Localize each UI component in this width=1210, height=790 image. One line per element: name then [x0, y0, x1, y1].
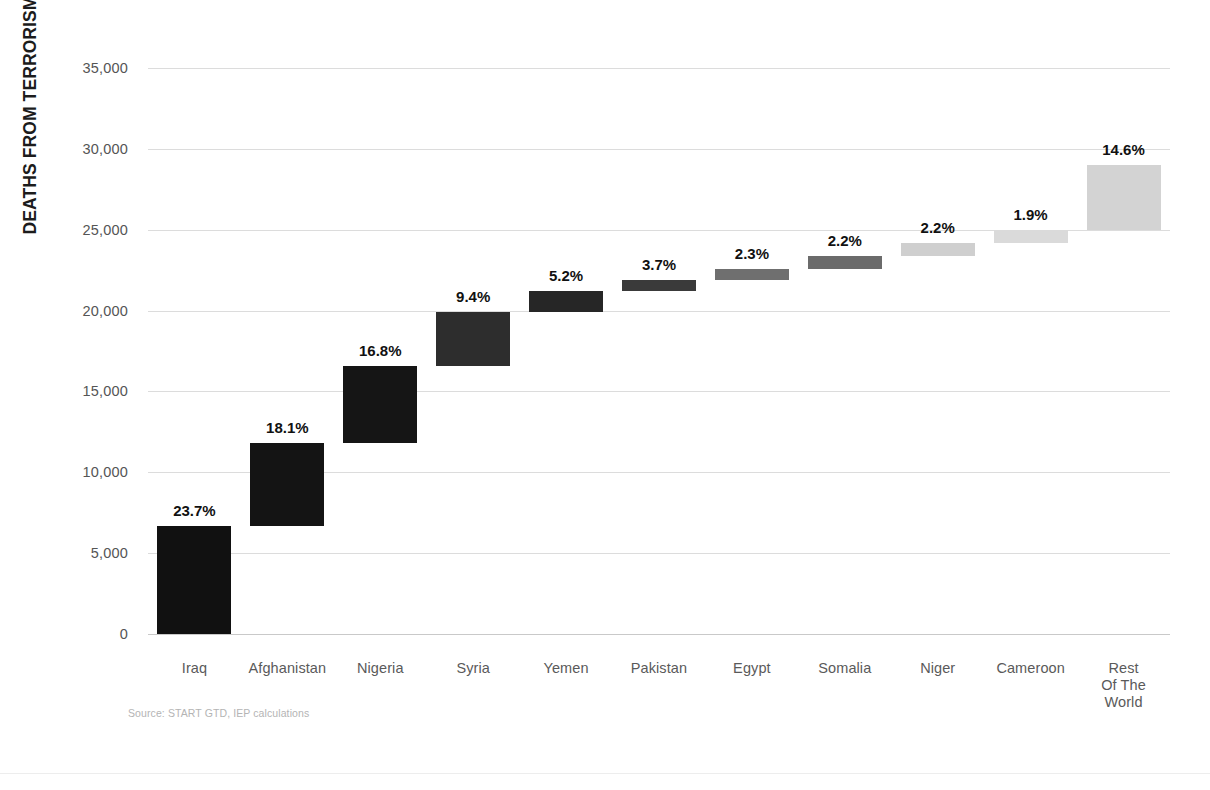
- bar-value-label: 14.6%: [1077, 141, 1170, 158]
- x-axis-label-line: Rest: [1077, 660, 1170, 677]
- y-axis-tick-label: 5,000: [91, 545, 128, 561]
- bar-value-label: 2.2%: [798, 232, 891, 249]
- bar[interactable]: [250, 443, 324, 525]
- bar-group[interactable]: 1.9%: [984, 68, 1077, 634]
- x-axis-label: Nigeria: [334, 660, 427, 677]
- x-axis-label: Pakistan: [613, 660, 706, 677]
- x-axis-label-line: Somalia: [798, 660, 891, 677]
- x-axis-label: RestOf TheWorld: [1077, 660, 1170, 711]
- bar-value-label: 23.7%: [148, 502, 241, 519]
- bar-value-label: 5.2%: [520, 267, 613, 284]
- x-axis-label-line: Pakistan: [613, 660, 706, 677]
- bar-group[interactable]: 2.2%: [798, 68, 891, 634]
- x-axis-label: Syria: [427, 660, 520, 677]
- bar-group[interactable]: 5.2%: [520, 68, 613, 634]
- bar-group[interactable]: 2.3%: [705, 68, 798, 634]
- x-axis-label: Niger: [891, 660, 984, 677]
- x-axis-label: Yemen: [520, 660, 613, 677]
- bar-group[interactable]: 2.2%: [891, 68, 984, 634]
- x-axis-label-line: Nigeria: [334, 660, 427, 677]
- bar-group[interactable]: 3.7%: [613, 68, 706, 634]
- x-axis-label-line: Afghanistan: [241, 660, 334, 677]
- bar-group[interactable]: 14.6%: [1077, 68, 1170, 634]
- bar-value-label: 3.7%: [613, 256, 706, 273]
- y-axis-tick-label: 10,000: [82, 464, 128, 480]
- waterfall-chart: DEATHS FROM TERRORISM 05,00010,00015,000…: [0, 0, 1210, 790]
- bar-value-label: 2.2%: [891, 219, 984, 236]
- bar-group[interactable]: 18.1%: [241, 68, 334, 634]
- bar-value-label: 18.1%: [241, 419, 334, 436]
- x-axis-category-labels: IraqAfghanistanNigeriaSyriaYemenPakistan…: [148, 660, 1170, 730]
- bar[interactable]: [715, 269, 789, 280]
- plot-area: 23.7%18.1%16.8%9.4%5.2%3.7%2.3%2.2%2.2%1…: [148, 68, 1170, 634]
- bar-value-label: 2.3%: [705, 245, 798, 262]
- y-axis-tick-label: 25,000: [82, 222, 128, 238]
- x-axis-label: Egypt: [705, 660, 798, 677]
- bar[interactable]: [901, 243, 975, 256]
- x-axis-label-line: Yemen: [520, 660, 613, 677]
- bar-group[interactable]: 9.4%: [427, 68, 520, 634]
- bar-group[interactable]: 23.7%: [148, 68, 241, 634]
- bar-value-label: 16.8%: [334, 342, 427, 359]
- bar-value-label: 9.4%: [427, 288, 520, 305]
- y-axis-tick-label: 0: [120, 626, 128, 642]
- x-axis-label: Afghanistan: [241, 660, 334, 677]
- x-axis-label: Somalia: [798, 660, 891, 677]
- y-axis-tick-labels: 05,00010,00015,00020,00025,00030,00035,0…: [0, 68, 138, 634]
- bar[interactable]: [1087, 165, 1161, 230]
- bar-group[interactable]: 16.8%: [334, 68, 427, 634]
- bar[interactable]: [808, 256, 882, 270]
- source-note: Source: START GTD, IEP calculations: [128, 707, 309, 719]
- x-axis-label: Iraq: [148, 660, 241, 677]
- x-axis-label-line: Of The: [1077, 677, 1170, 694]
- bar[interactable]: [157, 526, 231, 634]
- bar[interactable]: [994, 230, 1068, 243]
- y-axis-tick-label: 15,000: [82, 383, 128, 399]
- bar[interactable]: [343, 366, 417, 444]
- gridline: [148, 634, 1170, 635]
- bottom-divider: [0, 773, 1210, 774]
- x-axis-label-line: Egypt: [705, 660, 798, 677]
- y-axis-tick-label: 20,000: [82, 303, 128, 319]
- x-axis-label-line: Cameroon: [984, 660, 1077, 677]
- bars-layer: 23.7%18.1%16.8%9.4%5.2%3.7%2.3%2.2%2.2%1…: [148, 68, 1170, 634]
- bar[interactable]: [436, 312, 510, 365]
- y-axis-tick-label: 30,000: [82, 141, 128, 157]
- bar[interactable]: [622, 280, 696, 291]
- x-axis-label-line: World: [1077, 694, 1170, 711]
- x-axis-label-line: Iraq: [148, 660, 241, 677]
- bar-value-label: 1.9%: [984, 206, 1077, 223]
- y-axis-tick-label: 35,000: [82, 60, 128, 76]
- x-axis-label: Cameroon: [984, 660, 1077, 677]
- x-axis-label-line: Niger: [891, 660, 984, 677]
- bar[interactable]: [529, 291, 603, 312]
- x-axis-label-line: Syria: [427, 660, 520, 677]
